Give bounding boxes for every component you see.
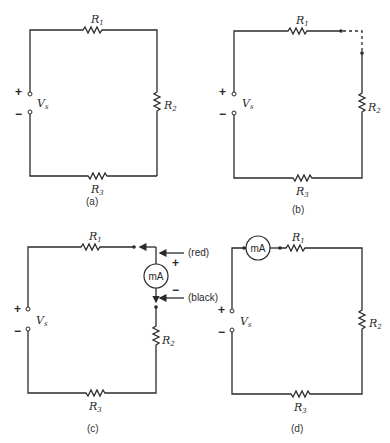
panel-c: mA (red) (black) + − + − Vs R1 R2 R3 (c) — [14, 230, 218, 434]
junction-dot — [132, 245, 136, 249]
source-terminal-minus — [26, 327, 30, 331]
meter-label: mA — [251, 243, 266, 254]
source-terminal-minus — [230, 328, 234, 332]
source-terminal-minus — [28, 110, 32, 114]
minus-sign: − — [218, 325, 225, 339]
r1-label: R1 — [88, 230, 102, 244]
panel-a: + − Vs R1 R2 R3 (a) — [15, 13, 177, 207]
caption-c: (c) — [87, 423, 99, 434]
r1-label: R1 — [295, 14, 309, 28]
panel-d: mA + − Vs R1 R2 R3 (d) — [218, 231, 382, 434]
plus-sign: + — [218, 303, 225, 317]
meter-minus-sign: − — [172, 283, 179, 297]
vs-label: Vs — [240, 315, 252, 329]
caption-a: (a) — [86, 196, 98, 207]
circuit-figure: + − Vs R1 R2 R3 (a) + − Vs R1 R2 R3 (b) … — [0, 0, 390, 443]
r2-label: R2 — [161, 334, 175, 348]
panel-b: + − Vs R1 R2 R3 (b) — [219, 14, 381, 215]
open-connection-dashed — [343, 31, 362, 51]
meter-label: mA — [149, 271, 164, 282]
r2-label: R2 — [368, 317, 382, 331]
r3-label: R3 — [295, 185, 309, 199]
r2-label: R2 — [367, 101, 381, 115]
r3-label: R3 — [90, 183, 104, 197]
plus-sign: + — [219, 85, 226, 99]
plus-sign: + — [15, 85, 22, 99]
vs-label: Vs — [37, 97, 49, 111]
vs-label: Vs — [36, 314, 48, 328]
r3-label: R3 — [293, 401, 307, 415]
minus-sign: − — [15, 107, 22, 121]
r1-label: R1 — [291, 231, 305, 245]
r1-label: R1 — [90, 13, 104, 27]
minus-sign: − — [219, 107, 226, 121]
black-lead-label: (black) — [188, 292, 218, 303]
source-terminal-plus — [28, 92, 32, 96]
r2-label: R2 — [163, 99, 177, 113]
plus-sign: + — [14, 302, 21, 316]
source-terminal-plus — [230, 309, 234, 313]
r3-label: R3 — [88, 400, 102, 414]
red-lead-label: (red) — [188, 247, 209, 258]
caption-d: (d) — [291, 423, 303, 434]
source-terminal-plus — [26, 307, 30, 311]
meter-plus-sign: + — [172, 256, 179, 270]
source-terminal-plus — [232, 92, 236, 96]
open-point-dot — [339, 29, 343, 33]
source-terminal-minus — [232, 111, 236, 115]
caption-b: (b) — [292, 204, 304, 215]
vs-label: Vs — [242, 97, 254, 111]
minus-sign: − — [14, 324, 21, 338]
